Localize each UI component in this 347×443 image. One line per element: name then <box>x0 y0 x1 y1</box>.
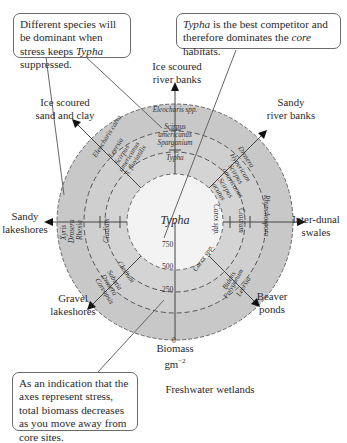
habitat-sandy-river-banks: Sandyriver banks <box>256 96 326 121</box>
svg-text:Typha: Typha <box>166 154 184 162</box>
svg-text:250: 250 <box>162 285 174 294</box>
habitat-inter-dunal-swales: Inter-dunalswales <box>286 213 346 238</box>
center-label-typha: Typha <box>150 213 200 228</box>
svg-text:Eleocharis spp.: Eleocharis spp. <box>152 106 198 114</box>
habitat-beaver-ponds: Beaverponds <box>252 290 292 315</box>
svg-text:Scirpus: Scirpus <box>164 123 186 131</box>
svg-text:americanus: americanus <box>158 131 192 139</box>
svg-text:Rhynchospora: Rhynchospora <box>262 194 270 237</box>
habitat-sandy-lakeshores: Sandylakeshores <box>0 210 50 235</box>
habitat-ice-scoured-river-banks: Ice scouredriver banks <box>147 60 207 85</box>
svg-text:Xyris: Xyris <box>60 225 68 241</box>
biomass-unit: gm−2 <box>147 355 203 370</box>
svg-text:500: 500 <box>162 262 174 271</box>
callout-species-dominance: Different species will be dominant when … <box>13 13 131 58</box>
svg-text:750: 750 <box>162 240 174 249</box>
svg-text:Carex spp.: Carex spp. <box>212 204 220 235</box>
habitat-ice-scoured-sand-clay: Ice scouredsand and clay <box>30 96 100 121</box>
svg-text:Drosera: Drosera <box>68 219 76 244</box>
svg-text:Sparganium: Sparganium <box>158 139 193 147</box>
habitat-gravel-lakeshores: Gravellakeshores <box>48 292 98 317</box>
callout-biomass-stress: As an indication that the axes represent… <box>12 372 138 431</box>
figure-caption-freshwater-wetlands: Freshwater wetlands <box>150 383 270 396</box>
svg-text:Cladium: Cladium <box>237 208 245 233</box>
biomass-axis-label: Biomass gm−2 <box>147 342 203 370</box>
svg-text:Rhexia: Rhexia <box>76 220 84 241</box>
svg-text:Cladium: Cladium <box>103 218 111 243</box>
callout-typha-core: Typha is the best competitor and therefo… <box>176 13 341 49</box>
